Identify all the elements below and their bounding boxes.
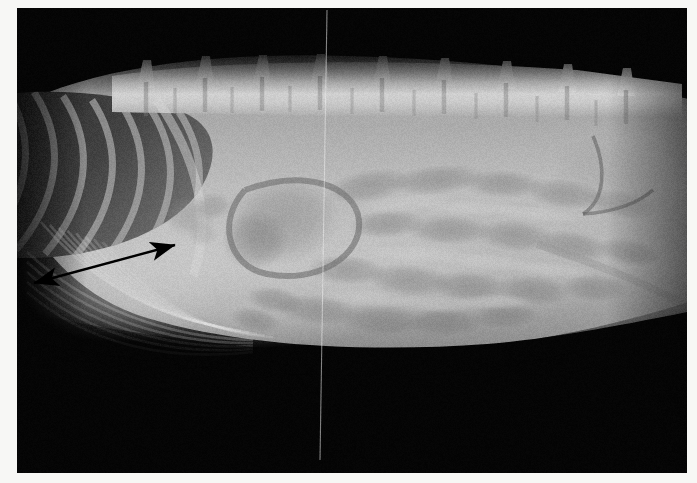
xray-image	[17, 8, 687, 473]
radiograph-film-plate	[17, 8, 687, 473]
radiograph-viewport: right lateral abdomen	[0, 0, 697, 483]
